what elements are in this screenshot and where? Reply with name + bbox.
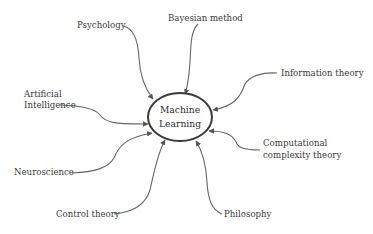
node-bayesian-method: Bayesian method	[168, 13, 243, 23]
node-neuroscience: Neuroscience	[14, 167, 74, 177]
center-ellipse	[148, 93, 212, 141]
node-computational-complexity-line1: Computational	[263, 138, 328, 148]
node-psychology: Psychology	[77, 20, 126, 30]
edge-information-theory	[213, 73, 277, 110]
node-control-theory: Control theory	[56, 209, 120, 219]
edge-bayesian	[185, 24, 198, 94]
edge-philosophy	[196, 141, 222, 214]
node-artificial-intelligence-line1: Artificial	[23, 89, 62, 99]
node-artificial-intelligence-line2: Intelligence	[24, 100, 76, 110]
center-label-line2: Learning	[159, 118, 201, 129]
edge-computational-complexity	[209, 131, 260, 150]
edge-psychology	[123, 26, 153, 99]
diagram-canvas: Machine Learning Psychology Bayesian met…	[0, 0, 373, 234]
node-philosophy: Philosophy	[224, 209, 272, 219]
diagram-svg: Machine Learning Psychology Bayesian met…	[0, 0, 373, 234]
edge-neuroscience	[72, 133, 152, 173]
center-node-machine-learning: Machine Learning	[148, 93, 212, 141]
edge-control-theory	[114, 140, 165, 214]
node-information-theory: Information theory	[281, 68, 364, 78]
center-label-line1: Machine	[160, 104, 200, 115]
node-computational-complexity-line2: complexity theory	[263, 150, 341, 160]
